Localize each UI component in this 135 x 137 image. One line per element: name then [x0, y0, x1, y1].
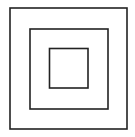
middle-square	[30, 29, 108, 109]
concentric-squares-diagram	[0, 0, 135, 137]
inner-square	[50, 49, 89, 89]
outer-square	[10, 8, 127, 129]
